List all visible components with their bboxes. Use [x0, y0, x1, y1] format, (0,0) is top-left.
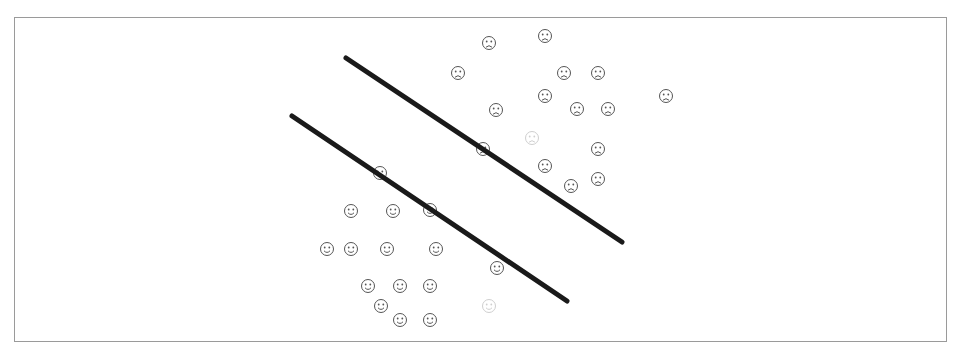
sad-face-icon	[602, 103, 615, 116]
diagram-canvas	[0, 0, 960, 355]
sad-face-icon	[592, 173, 605, 186]
sad-face-icon	[483, 37, 496, 50]
happy-face-icon	[394, 280, 407, 293]
faded-happy-face-icon	[483, 300, 496, 313]
happy-face-icon	[345, 205, 358, 218]
sad-face-icon	[660, 90, 673, 103]
happy-face-icon	[424, 314, 437, 327]
sad-face-icon	[490, 104, 503, 117]
sad-face-icon	[539, 160, 552, 173]
sad-face-icon	[592, 67, 605, 80]
happy-face-icon	[345, 243, 358, 256]
faded-sad-face-icon	[526, 132, 539, 145]
sad-face-icon	[558, 67, 571, 80]
happy-face-icon	[381, 243, 394, 256]
happy-face-icon	[321, 243, 334, 256]
sad-face-icon	[452, 67, 465, 80]
lower-margin-line	[292, 116, 567, 301]
sad-face-icon	[565, 180, 578, 193]
happy-face-icon	[387, 205, 400, 218]
happy-face-icon	[362, 280, 375, 293]
happy-face-icon	[424, 280, 437, 293]
sad-face-icon	[571, 103, 584, 116]
happy-face-icon	[430, 243, 443, 256]
sad-face-icon	[539, 90, 552, 103]
sad-face-icon	[539, 30, 552, 43]
happy-face-icon	[375, 300, 388, 313]
sad-face-icon	[592, 143, 605, 156]
happy-face-icon	[394, 314, 407, 327]
happy-face-icon	[491, 262, 504, 275]
